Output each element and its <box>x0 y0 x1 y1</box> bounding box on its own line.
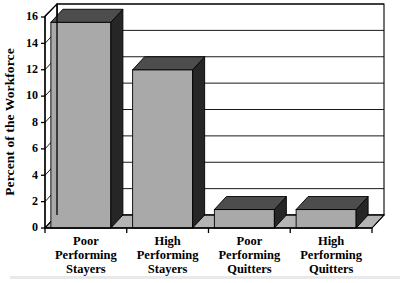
category-label-2: HighPerformingStayers <box>137 234 200 276</box>
y-tick-label: 16 <box>26 9 38 23</box>
y-tick-label: 4 <box>32 168 38 182</box>
category-label-line: Quitters <box>309 262 354 276</box>
scan-artifact <box>10 276 400 279</box>
category-label-line: High <box>154 234 180 248</box>
y-tick-label: 6 <box>32 141 38 155</box>
category-label-4: HighPerformingQuitters <box>300 234 363 276</box>
bar-top-face <box>133 57 205 70</box>
bar-front-face <box>133 70 193 228</box>
bar-2 <box>133 57 205 228</box>
bar-front-face <box>296 210 356 228</box>
bar-top-face <box>296 197 368 210</box>
category-label-line: Poor <box>73 234 99 248</box>
bar-front-face <box>214 210 274 228</box>
y-axis-title: Percent of the Workforce <box>2 48 17 195</box>
y-tick-label: 2 <box>32 194 38 208</box>
category-label-line: Performing <box>137 248 200 262</box>
category-label-line: Quitters <box>227 262 272 276</box>
bar-chart: 0246810121416 Percent of the Workforce P… <box>0 0 407 283</box>
category-label-line: Performing <box>218 248 281 262</box>
bar-side-face <box>111 9 123 228</box>
y-tick-label: 12 <box>26 62 38 76</box>
bar-top-face <box>214 197 286 210</box>
y-tick-group: 0246810121416 <box>26 9 45 234</box>
category-label-line: Performing <box>300 248 363 262</box>
y-tick-label: 10 <box>26 88 38 102</box>
x-tick-group <box>45 228 372 233</box>
category-label-line: Poor <box>237 234 263 248</box>
category-label-line: Performing <box>55 248 118 262</box>
y-tick-label: 14 <box>26 36 38 50</box>
y-tick-label: 8 <box>32 115 38 129</box>
category-label-line: High <box>318 234 344 248</box>
bar-1 <box>51 9 123 228</box>
category-label-line: Stayers <box>148 262 188 276</box>
bar-4 <box>296 197 368 228</box>
category-label-3: PoorPerformingQuitters <box>218 234 281 276</box>
bar-top-face <box>51 9 123 22</box>
category-label-1: PoorPerformingStayers <box>55 234 118 276</box>
bar-side-face <box>193 57 205 228</box>
bar-3 <box>214 197 286 228</box>
chart-canvas: 0246810121416 Percent of the Workforce P… <box>0 0 407 283</box>
y-tick-label: 0 <box>32 220 38 234</box>
category-label-line: Stayers <box>66 262 106 276</box>
category-label-group: PoorPerformingStayersHighPerformingStaye… <box>55 234 363 276</box>
bar-front-face <box>51 22 111 228</box>
